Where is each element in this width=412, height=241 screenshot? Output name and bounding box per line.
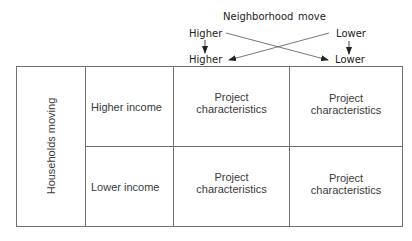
cell-higher-income-higher: Project characteristics: [174, 91, 289, 115]
cell-line-1: Project: [290, 92, 402, 104]
cell-lower-income-higher: Project characteristics: [174, 171, 289, 195]
table-divider-h: [85, 146, 403, 147]
cell-line-2: characteristics: [174, 183, 289, 195]
row-label-lower-income: Lower income: [91, 181, 159, 193]
households-moving-label: Households moving: [45, 98, 57, 195]
cell-higher-income-lower: Project characteristics: [290, 92, 402, 116]
cell-line-2: characteristics: [290, 104, 402, 116]
table-border-top: [16, 66, 403, 67]
table-border-bottom: [16, 226, 403, 227]
cell-line-1: Project: [174, 91, 289, 103]
cell-line-2: characteristics: [290, 184, 402, 196]
cell-line-1: Project: [290, 172, 402, 184]
cell-lower-income-lower: Project characteristics: [290, 172, 402, 196]
neighborhood-move-arrows: [0, 0, 412, 70]
cell-line-2: characteristics: [174, 103, 289, 115]
table-border-left: [16, 66, 17, 227]
row-label-higher-income: Higher income: [91, 101, 162, 113]
cell-line-1: Project: [174, 171, 289, 183]
